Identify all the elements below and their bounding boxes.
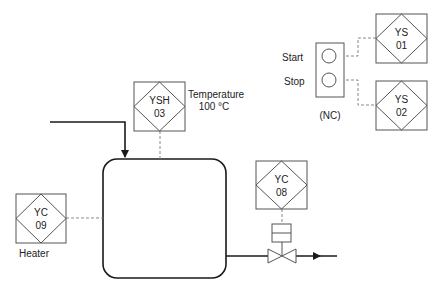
instrument-ys01: YS 01	[376, 14, 427, 63]
ysh03-number: 03	[154, 108, 166, 119]
ys01-tag: YS	[395, 27, 409, 38]
instrument-ys02: YS 02	[376, 81, 427, 130]
start-button[interactable]	[322, 49, 336, 63]
yc09-tag: YC	[34, 207, 48, 218]
nc-label: (NC)	[319, 110, 340, 121]
yc09-number: 09	[35, 220, 47, 231]
instrument-yc09: YC 09	[16, 194, 66, 243]
heater-label: Heater	[19, 248, 50, 259]
temperature-value: 100 °C	[199, 101, 230, 112]
stop-button[interactable]	[322, 73, 336, 87]
ysh03-tag: YSH	[149, 95, 170, 106]
inlet-pipe	[50, 122, 125, 157]
instrument-yc08: YC 08	[256, 161, 307, 209]
ys02-tag: YS	[395, 94, 409, 105]
stop-label: Stop	[284, 76, 305, 87]
temperature-label: Temperature	[188, 89, 245, 100]
flow-arrow-icon	[313, 252, 321, 260]
control-valve	[268, 224, 296, 263]
ys01-number: 01	[396, 40, 408, 51]
yc08-tag: YC	[275, 174, 289, 185]
instrument-ysh03: YSH 03	[134, 82, 185, 131]
pushbutton-panel	[316, 43, 344, 97]
ys02-number: 02	[396, 107, 408, 118]
start-label: Start	[282, 52, 303, 63]
pid-diagram: YS 01 YS 02 YSH 03 YC 08 YC 09 Start Sto…	[0, 0, 439, 291]
vessel	[103, 159, 226, 278]
yc08-number: 08	[276, 187, 288, 198]
